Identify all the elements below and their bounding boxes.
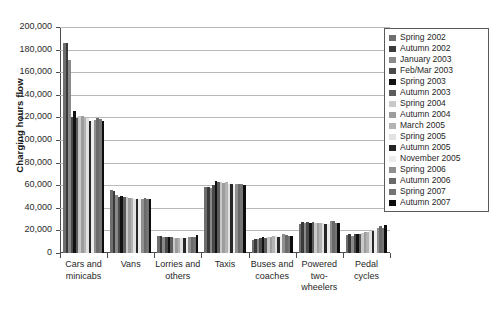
- bar-group: [60, 27, 107, 253]
- bar[interactable]: [102, 121, 105, 253]
- bar-group: [107, 27, 154, 253]
- legend-swatch-icon: [389, 101, 396, 107]
- y-axis-tick-label: 0: [0, 247, 52, 257]
- legend-item[interactable]: Autumn 2003: [389, 87, 486, 98]
- bar[interactable]: [149, 199, 152, 253]
- bar[interactable]: [196, 235, 199, 253]
- y-axis-tick-label: 40,000: [0, 202, 52, 212]
- x-axis-tick: [154, 253, 155, 258]
- legend-label: Autumn 2003: [400, 87, 451, 98]
- legend-label: Autumn 2007: [400, 197, 451, 208]
- x-axis-tick: [60, 253, 61, 258]
- legend-item[interactable]: March 2005: [389, 120, 486, 131]
- x-axis-label: Vans: [107, 259, 154, 294]
- x-axis-tick: [343, 253, 344, 258]
- bar[interactable]: [243, 185, 246, 253]
- bar-group: [154, 27, 201, 253]
- x-axis-label-container: Cars and minicabsVansLorries and othersT…: [60, 259, 390, 294]
- legend-label: January 2003: [400, 54, 452, 65]
- legend-label: Autumn 2006: [400, 175, 451, 186]
- legend-item[interactable]: January 2003: [389, 54, 486, 65]
- legend-label: Autumn 2002: [400, 43, 451, 54]
- legend-label: Autumn 2004: [400, 109, 451, 120]
- legend-label: Spring 2003: [400, 76, 446, 87]
- y-axis-tick-label: 200,000: [0, 21, 52, 31]
- x-axis-tick: [249, 253, 250, 258]
- legend-swatch-icon: [389, 79, 396, 85]
- legend-swatch-icon: [389, 35, 396, 41]
- legend-label: Feb/Mar 2003: [400, 65, 453, 76]
- legend-swatch-icon: [389, 178, 396, 184]
- y-axis-tick-label: 140,000: [0, 89, 52, 99]
- legend-item[interactable]: Spring 2002: [389, 32, 486, 43]
- y-axis-tick-label: 180,000: [0, 44, 52, 54]
- x-axis-label: Lorries and others: [154, 259, 201, 294]
- bar[interactable]: [290, 236, 293, 254]
- legend-swatch-icon: [389, 189, 396, 195]
- legend-label: March 2005: [400, 120, 445, 131]
- x-axis-tick: [107, 253, 108, 258]
- legend-swatch-icon: [389, 156, 396, 162]
- legend-swatch-icon: [389, 46, 396, 52]
- bar-group: [296, 27, 343, 253]
- legend: Spring 2002Autumn 2002January 2003Feb/Ma…: [384, 28, 489, 212]
- legend-swatch-icon: [389, 134, 396, 140]
- legend-item[interactable]: Spring 2005: [389, 131, 486, 142]
- x-axis-tick: [201, 253, 202, 258]
- legend-item[interactable]: Spring 2006: [389, 164, 486, 175]
- x-axis-tick: [390, 253, 391, 258]
- legend-item[interactable]: Autumn 2007: [389, 197, 486, 208]
- legend-swatch-icon: [389, 112, 396, 118]
- x-axis-label: Pedal cycles: [343, 259, 390, 294]
- x-axis-label: Taxis: [201, 259, 248, 294]
- legend-swatch-icon: [389, 200, 396, 206]
- legend-swatch-icon: [389, 57, 396, 63]
- y-axis-tick-label: 60,000: [0, 179, 52, 189]
- legend-label: Autumn 2005: [400, 142, 451, 153]
- y-axis-tick-label: 80,000: [0, 157, 52, 167]
- legend-swatch-icon: [389, 167, 396, 173]
- bar-group: [201, 27, 248, 253]
- bar[interactable]: [384, 225, 387, 253]
- x-axis-label: Powered two-wheelers: [296, 259, 343, 294]
- legend-item[interactable]: Spring 2003: [389, 76, 486, 87]
- legend-swatch-icon: [389, 68, 396, 74]
- legend-item[interactable]: Spring 2004: [389, 98, 486, 109]
- bar-group: [249, 27, 296, 253]
- bar-chart: Charging hours flow 020,00040,00060,0008…: [0, 0, 496, 313]
- y-axis-tick-label: 20,000: [0, 224, 52, 234]
- legend-label: Spring 2006: [400, 164, 446, 175]
- legend-item[interactable]: Autumn 2002: [389, 43, 486, 54]
- legend-item[interactable]: November 2005: [389, 153, 486, 164]
- bar-group: [343, 27, 390, 253]
- legend-label: November 2005: [400, 153, 460, 164]
- x-axis-label: Cars and minicabs: [60, 259, 107, 294]
- legend-label: Spring 2007: [400, 186, 446, 197]
- y-axis-tick-label: 100,000: [0, 134, 52, 144]
- bar-group-container: [60, 27, 390, 253]
- bar[interactable]: [337, 223, 340, 253]
- legend-label: Spring 2005: [400, 131, 446, 142]
- legend-label: Spring 2002: [400, 32, 446, 43]
- legend-item[interactable]: Autumn 2006: [389, 175, 486, 186]
- x-axis-label: Buses and coaches: [249, 259, 296, 294]
- legend-item[interactable]: Autumn 2005: [389, 142, 486, 153]
- legend-swatch-icon: [389, 145, 396, 151]
- legend-item[interactable]: Spring 2007: [389, 186, 486, 197]
- legend-swatch-icon: [389, 90, 396, 96]
- y-axis-tick-label: 120,000: [0, 111, 52, 121]
- x-axis-tick: [296, 253, 297, 258]
- y-axis-tick-label: 160,000: [0, 66, 52, 76]
- legend-label: Spring 2004: [400, 98, 446, 109]
- legend-item[interactable]: Feb/Mar 2003: [389, 65, 486, 76]
- legend-item[interactable]: Autumn 2004: [389, 109, 486, 120]
- legend-swatch-icon: [389, 123, 396, 129]
